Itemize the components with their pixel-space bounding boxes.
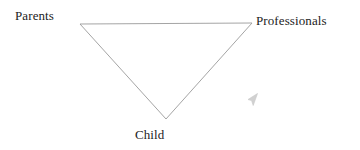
node-label-child: Child — [135, 128, 164, 142]
node-label-parents: Parents — [15, 9, 54, 23]
node-label-professionals: Professionals — [256, 14, 327, 28]
triangle-outline — [80, 23, 252, 119]
triangle-diagram: Parents Professionals Child — [0, 0, 360, 150]
